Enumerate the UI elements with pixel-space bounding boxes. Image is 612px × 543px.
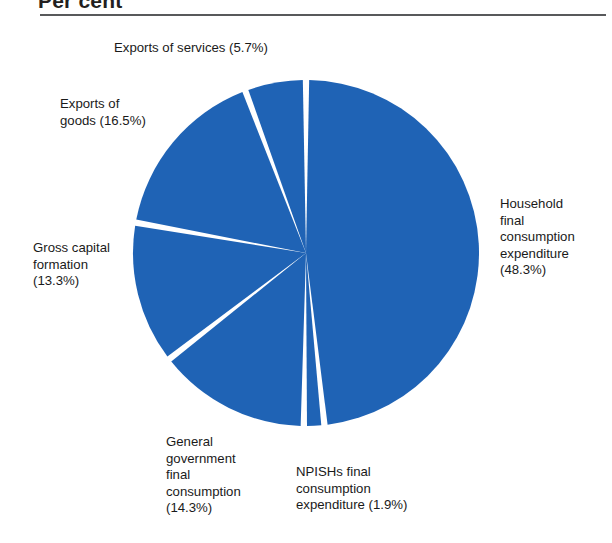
pie-label-general-government-final-consumption: General government final consumption (14…: [166, 434, 241, 517]
pie-label-exports-of-goods: Exports of goods (16.5%): [60, 96, 146, 129]
pie-label-npishs-final-consumption-expenditure: NPISHs final consumption expenditure (1.…: [296, 464, 407, 514]
pie-slice-group: [133, 80, 479, 426]
pie-label-household-final-consumption-expenditure: Household final consumption expenditure …: [500, 196, 575, 279]
pie-label-exports-of-services: Exports of services (5.7%): [114, 40, 268, 57]
pie-label-gross-capital-formation: Gross capital formation (13.3%): [33, 240, 110, 290]
pie-slice[interactable]: [306, 80, 479, 425]
